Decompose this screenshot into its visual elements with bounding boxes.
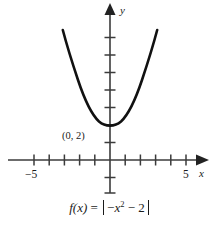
y-axis-label: y — [119, 4, 125, 16]
x-tick-label-positive-5: 5 — [183, 168, 189, 180]
vertex-point-label: (0, 2) — [62, 130, 85, 142]
x-axis-label: x — [198, 167, 204, 179]
caption-function-arg: (x) — [73, 200, 87, 215]
x-axis-arrow-icon — [196, 155, 209, 166]
caption-absolute-value-expression: −x2 − 2 — [103, 200, 149, 215]
function-graph-figure: y x −5 5 (0, 2) f(x) = −x2 − 2 — [0, 0, 218, 227]
caption-equals-sign: = — [91, 200, 98, 215]
function-equation-caption: f(x) = −x2 − 2 — [0, 200, 218, 215]
y-axis-arrow-icon — [105, 3, 116, 15]
caption-minus-two: − 2 — [128, 200, 145, 215]
caption-exponent: 2 — [120, 199, 124, 209]
coordinate-plane: y x −5 5 (0, 2) — [0, 0, 218, 227]
x-tick-label-negative-5: −5 — [25, 168, 37, 180]
